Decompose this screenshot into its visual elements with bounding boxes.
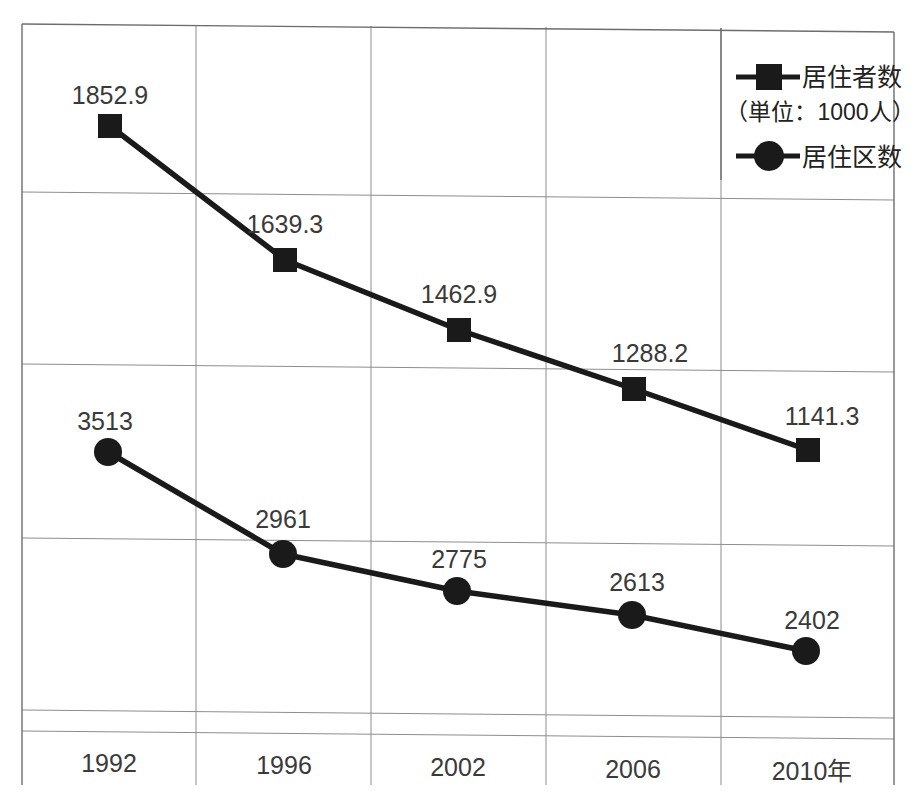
data-point-districts-2002 bbox=[443, 577, 471, 605]
data-label-residents-1996: 1639.3 bbox=[247, 210, 323, 238]
x-tick-label-1992: 1992 bbox=[81, 749, 137, 777]
legend-unit-note: （単位：1000人） bbox=[725, 99, 914, 125]
data-point-districts-1992 bbox=[94, 438, 122, 466]
data-label-districts-1996: 2961 bbox=[255, 505, 311, 533]
data-label-districts-1992: 3513 bbox=[77, 407, 133, 435]
data-point-residents-1996 bbox=[273, 248, 297, 272]
data-label-residents-2002: 1462.9 bbox=[421, 280, 497, 308]
x-tick-label-2006: 2006 bbox=[605, 755, 661, 783]
line-chart-canvas: 居住者数 （単位：1000人） 居住区数 1852.9 1639.3 1462.… bbox=[0, 0, 922, 800]
x-tick-label-1996: 1996 bbox=[256, 751, 312, 779]
data-label-residents-2010: 1141.3 bbox=[785, 402, 860, 430]
plot-background bbox=[22, 24, 894, 786]
legend-marker-square-icon bbox=[756, 64, 782, 90]
legend-label-residents: 居住者数 bbox=[802, 63, 902, 91]
data-label-districts-2010: 2402 bbox=[784, 606, 840, 634]
data-label-districts-2006: 2613 bbox=[609, 568, 665, 596]
data-label-residents-2006: 1288.2 bbox=[612, 339, 688, 367]
legend-label-districts: 居住区数 bbox=[802, 143, 902, 171]
data-point-districts-2010 bbox=[792, 637, 820, 665]
x-tick-label-2010: 2010年 bbox=[772, 757, 853, 785]
data-point-residents-2006 bbox=[622, 377, 646, 401]
data-label-residents-1992: 1852.9 bbox=[72, 81, 148, 109]
data-point-residents-1992 bbox=[98, 114, 122, 138]
data-point-residents-2002 bbox=[447, 318, 471, 342]
data-point-districts-1996 bbox=[269, 540, 297, 568]
legend-marker-circle-icon bbox=[754, 141, 784, 171]
x-tick-label-2002: 2002 bbox=[430, 753, 486, 781]
data-label-districts-2002: 2775 bbox=[431, 545, 487, 573]
data-point-residents-2010 bbox=[796, 438, 820, 462]
chart-figure: 居住者数 （単位：1000人） 居住区数 1852.9 1639.3 1462.… bbox=[0, 0, 922, 800]
data-point-districts-2006 bbox=[618, 601, 646, 629]
